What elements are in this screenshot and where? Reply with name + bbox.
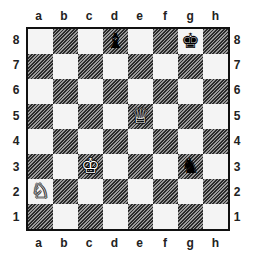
rank-label-1: 1 — [231, 205, 243, 230]
square-b1[interactable] — [53, 204, 78, 229]
square-d6[interactable] — [103, 79, 128, 104]
file-label-d: d — [102, 9, 127, 23]
square-c3[interactable]: ♔ — [78, 154, 103, 179]
square-h7[interactable] — [203, 54, 228, 79]
white-king-icon[interactable]: ♔ — [81, 156, 100, 177]
square-a2[interactable]: ♘ — [28, 179, 53, 204]
rank-label-8: 8 — [10, 27, 22, 52]
square-f6[interactable] — [153, 79, 178, 104]
square-c8[interactable] — [78, 29, 103, 54]
square-c5[interactable] — [78, 104, 103, 129]
square-h8[interactable] — [203, 29, 228, 54]
square-g7[interactable] — [178, 54, 203, 79]
file-label-f: f — [152, 9, 177, 23]
square-f1[interactable] — [153, 204, 178, 229]
square-b2[interactable] — [53, 179, 78, 204]
file-labels-top: abcdefgh — [26, 9, 228, 23]
file-label-b: b — [51, 236, 76, 250]
square-f3[interactable] — [153, 154, 178, 179]
square-b6[interactable] — [53, 79, 78, 104]
square-b3[interactable] — [53, 154, 78, 179]
square-a7[interactable] — [28, 54, 53, 79]
square-g3[interactable]: ♞ — [178, 154, 203, 179]
file-label-b: b — [51, 9, 76, 23]
square-e4[interactable] — [128, 129, 153, 154]
square-d1[interactable] — [103, 204, 128, 229]
square-h2[interactable] — [203, 179, 228, 204]
square-c4[interactable] — [78, 129, 103, 154]
rank-label-7: 7 — [10, 52, 22, 77]
square-f8[interactable] — [153, 29, 178, 54]
square-a5[interactable] — [28, 104, 53, 129]
file-label-a: a — [26, 236, 51, 250]
square-e3[interactable] — [128, 154, 153, 179]
file-labels-bottom: abcdefgh — [26, 236, 228, 250]
rank-label-5: 5 — [10, 103, 22, 128]
file-label-g: g — [178, 9, 203, 23]
square-h6[interactable] — [203, 79, 228, 104]
rank-label-7: 7 — [231, 52, 243, 77]
rank-label-6: 6 — [231, 78, 243, 103]
square-g2[interactable] — [178, 179, 203, 204]
square-g6[interactable] — [178, 79, 203, 104]
square-d3[interactable] — [103, 154, 128, 179]
square-e2[interactable] — [128, 179, 153, 204]
square-f5[interactable] — [153, 104, 178, 129]
square-h4[interactable] — [203, 129, 228, 154]
square-d2[interactable] — [103, 179, 128, 204]
square-e7[interactable] — [128, 54, 153, 79]
rank-labels-left: 87654321 — [10, 27, 22, 230]
square-d5[interactable] — [103, 104, 128, 129]
file-label-e: e — [127, 236, 152, 250]
square-f2[interactable] — [153, 179, 178, 204]
square-f4[interactable] — [153, 129, 178, 154]
rank-label-6: 6 — [10, 78, 22, 103]
square-e8[interactable] — [128, 29, 153, 54]
square-b7[interactable] — [53, 54, 78, 79]
file-label-f: f — [152, 236, 177, 250]
square-g8[interactable]: ♚ — [178, 29, 203, 54]
file-label-g: g — [178, 236, 203, 250]
rank-label-5: 5 — [231, 103, 243, 128]
square-c2[interactable] — [78, 179, 103, 204]
file-label-d: d — [102, 236, 127, 250]
white-queen-icon[interactable]: ♕ — [131, 106, 150, 127]
square-e6[interactable] — [128, 79, 153, 104]
square-c7[interactable] — [78, 54, 103, 79]
square-h3[interactable] — [203, 154, 228, 179]
square-h1[interactable] — [203, 204, 228, 229]
chess-board: ♝♚♕♔♞♘ — [26, 27, 230, 231]
square-d4[interactable] — [103, 129, 128, 154]
rank-label-2: 2 — [10, 179, 22, 204]
square-d8[interactable]: ♝ — [103, 29, 128, 54]
rank-label-3: 3 — [10, 154, 22, 179]
square-a1[interactable] — [28, 204, 53, 229]
square-b8[interactable] — [53, 29, 78, 54]
square-b5[interactable] — [53, 104, 78, 129]
square-a6[interactable] — [28, 79, 53, 104]
square-a3[interactable] — [28, 154, 53, 179]
file-label-c: c — [77, 9, 102, 23]
file-label-h: h — [203, 236, 228, 250]
square-g1[interactable] — [178, 204, 203, 229]
square-c6[interactable] — [78, 79, 103, 104]
square-g4[interactable] — [178, 129, 203, 154]
square-f7[interactable] — [153, 54, 178, 79]
black-king-icon[interactable]: ♚ — [181, 31, 200, 52]
square-h5[interactable] — [203, 104, 228, 129]
square-d7[interactable] — [103, 54, 128, 79]
square-e1[interactable] — [128, 204, 153, 229]
black-bishop-icon[interactable]: ♝ — [106, 31, 125, 52]
rank-label-2: 2 — [231, 179, 243, 204]
white-knight-icon[interactable]: ♘ — [31, 181, 50, 202]
square-g5[interactable] — [178, 104, 203, 129]
file-label-c: c — [77, 236, 102, 250]
file-label-a: a — [26, 9, 51, 23]
square-a4[interactable] — [28, 129, 53, 154]
black-knight-icon[interactable]: ♞ — [181, 156, 200, 177]
rank-label-4: 4 — [231, 129, 243, 154]
square-a8[interactable] — [28, 29, 53, 54]
square-b4[interactable] — [53, 129, 78, 154]
square-e5[interactable]: ♕ — [128, 104, 153, 129]
square-c1[interactable] — [78, 204, 103, 229]
